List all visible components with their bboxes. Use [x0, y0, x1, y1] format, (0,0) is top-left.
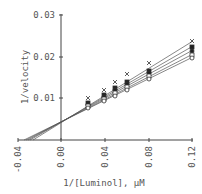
lineweaver-burk-chart: 0.01 0.02 0.03 -0.04 0.00 0.04 0.08 0.12…: [0, 0, 202, 194]
x-tick-label: -0.04: [13, 146, 23, 173]
data-markers: [86, 39, 194, 110]
y-tick-label: 0.01: [33, 93, 55, 103]
x-tick-label: 0.00: [56, 146, 66, 168]
x-marker-series: [86, 39, 194, 100]
x-tick-label: 0.12: [187, 146, 197, 168]
y-tick-label: 0.03: [33, 10, 55, 20]
y-axis-label: 1/velocity: [20, 49, 30, 104]
x-tick-label: 0.04: [100, 146, 110, 168]
x-tick-label: 0.08: [144, 146, 154, 168]
x-axis-label: 1/[Luminol], µM: [63, 178, 145, 188]
y-tick-label: 0.02: [33, 52, 55, 62]
